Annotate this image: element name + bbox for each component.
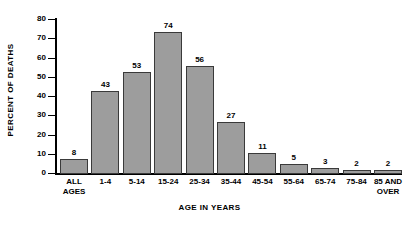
- bar-value-label: 5: [280, 154, 308, 162]
- bar: [186, 66, 214, 174]
- bar: [91, 91, 119, 174]
- bar: [123, 72, 151, 174]
- x-axis-tick-label: 85 ANDOVER: [367, 177, 409, 196]
- bar-slot: 56: [186, 20, 214, 174]
- y-axis-tick-label: 30: [26, 111, 46, 119]
- y-axis-tick: [48, 135, 55, 136]
- bar-slot: 2: [343, 20, 371, 174]
- plot-area: 84353745627115322: [56, 19, 401, 174]
- bar: [248, 153, 276, 174]
- y-axis-tick: [48, 173, 55, 174]
- bar-slot: 8: [60, 20, 88, 174]
- bar: [374, 170, 402, 174]
- y-axis-tick: [48, 19, 55, 20]
- x-axis-title: AGE IN YEARS: [0, 204, 419, 212]
- bar-slot: 27: [217, 20, 245, 174]
- x-axis-tick-label-line: AGES: [53, 187, 95, 197]
- y-axis-tick-label: 10: [26, 150, 46, 158]
- x-axis-tick-label-line: 85 AND: [367, 177, 409, 187]
- bar-value-label: 27: [217, 112, 245, 120]
- bar: [154, 32, 182, 174]
- bar-value-label: 43: [91, 81, 119, 89]
- y-axis-tick: [48, 38, 55, 39]
- y-axis-tick-label: 70: [26, 34, 46, 42]
- bar-slot: 11: [248, 20, 276, 174]
- y-axis-title: PERCENT OF DEATHS: [0, 0, 22, 180]
- bar-value-label: 56: [186, 56, 214, 64]
- y-axis-tick-label: 40: [26, 92, 46, 100]
- y-axis-tick: [48, 154, 55, 155]
- bar-slot: 43: [91, 20, 119, 174]
- y-axis-tick: [48, 115, 55, 116]
- y-axis-tick-label: 60: [26, 54, 46, 62]
- y-axis-tick-label: 50: [26, 73, 46, 81]
- bar-slot: 53: [123, 20, 151, 174]
- bar-value-label: 2: [374, 160, 402, 168]
- y-axis-tick: [48, 77, 55, 78]
- bar-slot: 74: [154, 20, 182, 174]
- bar-chart-figure: PERCENT OF DEATHS 01020304050607080 8435…: [0, 0, 419, 226]
- x-axis-tick-label-line: OVER: [367, 187, 409, 197]
- y-axis-tick-label: 80: [26, 15, 46, 23]
- bar-value-label: 8: [60, 149, 88, 157]
- y-axis-tick: [48, 96, 55, 97]
- y-axis-tick: [48, 58, 55, 59]
- bar: [280, 164, 308, 174]
- bar: [343, 170, 371, 174]
- bar-value-label: 3: [311, 158, 339, 166]
- y-axis-title-text: PERCENT OF DEATHS: [7, 44, 15, 137]
- bar: [217, 122, 245, 174]
- bar-value-label: 53: [123, 62, 151, 70]
- bar: [60, 159, 88, 174]
- y-axis-tick-label: 0: [26, 169, 46, 177]
- bar-slot: 3: [311, 20, 339, 174]
- bar-slot: 2: [374, 20, 402, 174]
- bar-value-label: 74: [154, 22, 182, 30]
- bar-slot: 5: [280, 20, 308, 174]
- y-axis-tick-label: 20: [26, 131, 46, 139]
- bar-value-label: 2: [343, 160, 371, 168]
- bar: [311, 168, 339, 174]
- bar-value-label: 11: [248, 143, 276, 151]
